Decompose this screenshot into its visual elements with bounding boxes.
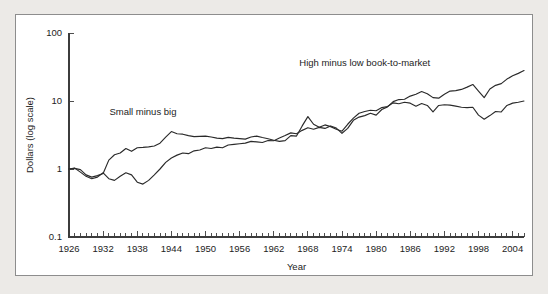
y-tick-label: 0.1 <box>49 231 62 242</box>
data-series-group <box>69 71 524 185</box>
y-axis-tick-labels: 1001010.1 <box>46 27 62 242</box>
x-tick-label: 1932 <box>93 243 114 254</box>
x-tick-label: 1968 <box>297 243 318 254</box>
x-tick-label: 1938 <box>127 243 148 254</box>
y-tick-label: 10 <box>51 95 62 106</box>
y-tick-label: 1 <box>57 163 62 174</box>
y-axis-title: Dollars (log scale) <box>24 97 35 173</box>
series-line <box>69 71 524 185</box>
x-tick-label: 1962 <box>263 243 284 254</box>
series-label: Small minus big <box>109 106 176 117</box>
x-tick-label: 1926 <box>58 243 79 254</box>
chart-plot-area: 1001010.1 192619321938194419501956196219… <box>16 15 534 277</box>
x-tick-label: 1986 <box>400 243 421 254</box>
x-tick-label: 1974 <box>331 243 352 254</box>
y-axis-ticks <box>69 33 74 237</box>
x-tick-label: 1950 <box>195 243 216 254</box>
line-chart: 1001010.1 192619321938194419501956196219… <box>16 15 534 277</box>
x-tick-label: 2004 <box>502 243 523 254</box>
x-tick-label: 1980 <box>366 243 387 254</box>
x-tick-label: 1956 <box>229 243 250 254</box>
figure-card: 1001010.1 192619321938194419501956196219… <box>15 14 533 276</box>
series-label: High minus low book-to-market <box>299 57 430 68</box>
x-axis-title: Year <box>287 261 306 272</box>
x-tick-label: 1992 <box>434 243 455 254</box>
x-tick-label: 1944 <box>161 243 182 254</box>
x-axis-tick-labels: 1926193219381944195019561962196819741980… <box>58 243 523 254</box>
x-tick-label: 1998 <box>468 243 489 254</box>
x-axis-ticks <box>69 231 524 237</box>
y-tick-label: 100 <box>46 27 62 38</box>
